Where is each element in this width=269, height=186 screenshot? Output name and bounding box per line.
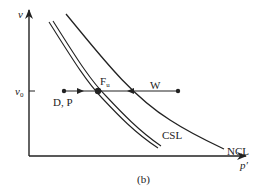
- point-dp: [62, 89, 66, 93]
- v0-label: v0: [15, 86, 23, 99]
- point-dp-label: D, P: [53, 97, 73, 108]
- point-w: [176, 89, 180, 93]
- csl-label: CSL: [162, 130, 182, 141]
- figure-caption: (b): [137, 174, 150, 185]
- point-fu-label-sub: u: [106, 81, 110, 89]
- x-axis-label: p′: [240, 160, 248, 171]
- arrow-right-icon: [77, 88, 84, 94]
- ncl-curve: [66, 14, 224, 149]
- point-w-label: W: [150, 80, 160, 91]
- v0-label-sub: 0: [20, 91, 24, 99]
- ncl-label: NCL: [227, 146, 249, 157]
- y-axis-label: v: [18, 9, 23, 20]
- critical-state-diagram: [0, 0, 269, 186]
- point-fu-label: Fu: [100, 76, 110, 89]
